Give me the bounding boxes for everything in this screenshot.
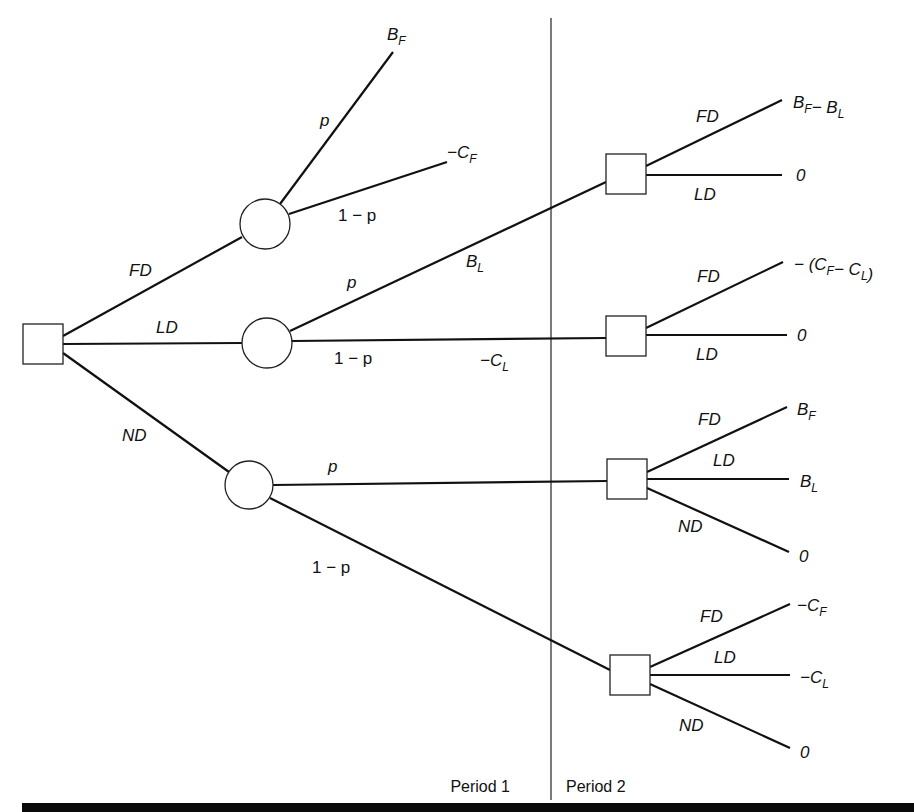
payoff-label: BF — [387, 25, 406, 48]
tree-branch — [63, 237, 242, 336]
tree-edges — [63, 52, 790, 748]
payoff-label: 0 — [797, 326, 807, 345]
payoff-label: − (CF− CL) — [794, 255, 873, 284]
branch-label: p — [327, 457, 337, 476]
payoff-label: −CF — [447, 143, 477, 166]
period-1-label: Period 1 — [450, 778, 510, 795]
branch-label: ND — [678, 517, 703, 536]
branch-label: LD — [694, 185, 716, 204]
tree-branch — [650, 684, 790, 748]
chance-node — [225, 461, 273, 509]
chance-node — [242, 318, 292, 368]
tree-branch — [270, 498, 610, 670]
branch-label: 1 − p — [338, 206, 376, 225]
tree-branch — [273, 481, 607, 485]
branch-label: 1 − p — [312, 558, 350, 577]
payoff-label: 0 — [800, 743, 810, 762]
payoff-labels: BF−CFBL−CLBF− BL0− (CF− CL)0BFBL0−CF−CL0 — [387, 25, 873, 762]
branch-label: FD — [700, 607, 723, 626]
tree-nodes — [23, 154, 650, 695]
decision-node — [606, 316, 646, 356]
tree-branch — [63, 353, 229, 472]
branch-label: FD — [696, 107, 719, 126]
branch-label: LD — [713, 451, 735, 470]
branch-label: FD — [129, 261, 152, 280]
payoff-label: 0 — [799, 547, 809, 566]
branch-label: LD — [696, 345, 718, 364]
payoff-label: −CF — [797, 596, 827, 619]
edge-labels: FDLDNDp1 − pp1 − pp1 − pFDLDFDLDFDLDNDFD… — [122, 107, 736, 735]
period-labels: Period 1 Period 2 — [450, 778, 625, 795]
payoff-label: −CL — [800, 668, 829, 691]
decision-node — [606, 154, 646, 194]
payoff-label: BF — [797, 400, 816, 423]
period-2-label: Period 2 — [566, 778, 626, 795]
chance-node — [240, 199, 290, 249]
branch-label: FD — [697, 267, 720, 286]
decision-node — [610, 655, 650, 695]
payoff-label: BL — [800, 472, 818, 495]
decision-node — [607, 459, 647, 499]
branch-label: 1 − p — [334, 349, 372, 368]
decision-tree-diagram: FDLDNDp1 − pp1 − pp1 − pFDLDFDLDFDLDNDFD… — [0, 0, 914, 812]
payoff-label: 0 — [796, 166, 806, 185]
tree-branch — [280, 52, 393, 204]
branch-label: LD — [714, 648, 736, 667]
branch-label: p — [346, 273, 356, 292]
branch-label: p — [319, 111, 329, 130]
payoff-label: BL — [466, 252, 484, 275]
payoff-label: BF− BL — [793, 93, 844, 121]
branch-label: LD — [156, 318, 178, 337]
tree-branch — [63, 343, 242, 344]
branch-label: ND — [679, 716, 704, 735]
branch-label: FD — [698, 410, 721, 429]
tree-branch — [647, 488, 789, 552]
bottom-rule — [22, 803, 914, 812]
tree-branch — [292, 338, 606, 341]
tree-branch — [290, 182, 606, 331]
branch-label: ND — [122, 426, 147, 445]
payoff-label: −CL — [480, 351, 509, 374]
decision-node — [23, 324, 63, 364]
